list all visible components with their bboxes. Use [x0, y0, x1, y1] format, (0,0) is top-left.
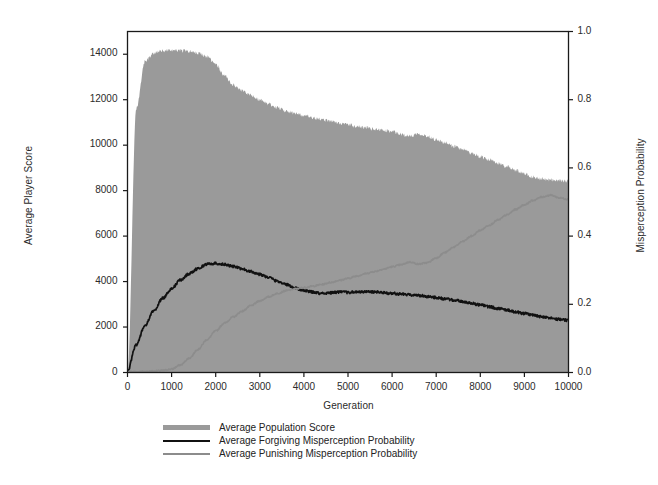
- chart-figure: Average Player Score Misperception Proba…: [0, 0, 658, 485]
- y-tick-label-right: 0.6: [578, 161, 618, 172]
- y-tick-label-left: 12000: [64, 93, 118, 104]
- y-tick-label-right: 0.4: [578, 229, 618, 240]
- y-tick-label-left: 2000: [64, 320, 118, 331]
- y-tick-label-right: 0.0: [578, 366, 618, 377]
- legend-item-label: Average Forgiving Misperception Probabil…: [219, 434, 414, 447]
- legend-item: Average Population Score: [163, 421, 417, 434]
- y-tick-label-left: 8000: [64, 184, 118, 195]
- y-tick-label-right: 1.0: [578, 25, 618, 36]
- y-axis-label-left: Average Player Score: [23, 111, 34, 281]
- y-tick-label-right: 0.2: [578, 297, 618, 308]
- legend-item: Average Punishing Misperception Probabil…: [163, 447, 417, 460]
- legend-item-label: Average Population Score: [219, 421, 335, 434]
- x-tick-label: 10000: [539, 381, 599, 392]
- y-axis-label-right: Misperception Probability: [635, 101, 646, 291]
- y-tick-label-left: 14000: [64, 47, 118, 58]
- y-tick-label-left: 0: [64, 366, 118, 377]
- legend-item: Average Forgiving Misperception Probabil…: [163, 434, 417, 447]
- y-tick-label-left: 6000: [64, 229, 118, 240]
- legend-swatch-icon: [163, 448, 210, 459]
- y-tick-label-right: 0.8: [578, 93, 618, 104]
- series-average-population-score: [128, 49, 569, 374]
- legend-swatch-icon: [163, 435, 210, 446]
- y-tick-label-left: 10000: [64, 138, 118, 149]
- x-axis-label: Generation: [128, 400, 569, 411]
- y-tick-label-left: 4000: [64, 275, 118, 286]
- chart-legend: Average Population ScoreAverage Forgivin…: [163, 421, 417, 460]
- legend-item-label: Average Punishing Misperception Probabil…: [219, 447, 417, 460]
- legend-swatch-icon: [163, 422, 210, 433]
- chart-plot-area: [0, 0, 658, 485]
